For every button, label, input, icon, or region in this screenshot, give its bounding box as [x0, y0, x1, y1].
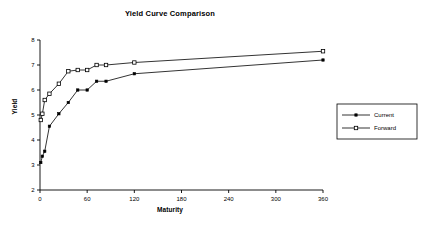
- data-point-current: [133, 73, 135, 75]
- y-tick-label: 6: [31, 87, 35, 93]
- legend-label-forward: Forward: [374, 125, 396, 131]
- data-point-current: [95, 80, 97, 82]
- x-tick-label: 300: [271, 196, 282, 202]
- axes-group: 2345678060120180240300360: [31, 37, 329, 202]
- data-point-current: [44, 150, 46, 152]
- data-point-current: [48, 125, 50, 127]
- y-tick-label: 4: [31, 137, 35, 143]
- y-tick-label: 8: [31, 37, 35, 43]
- y-tick-label: 5: [31, 112, 35, 118]
- series-current: [40, 59, 325, 164]
- legend-group: CurrentForward: [337, 104, 417, 139]
- data-point-forward: [321, 50, 324, 53]
- data-point-forward: [39, 118, 42, 121]
- x-tick-label: 240: [224, 196, 235, 202]
- data-point-current: [322, 59, 324, 61]
- data-point-forward: [48, 92, 51, 95]
- data-point-current: [105, 80, 107, 82]
- x-tick-label: 60: [84, 196, 91, 202]
- legend-marker-forward: [354, 126, 357, 129]
- data-point-forward: [85, 68, 88, 71]
- yield-curve-chart: Yield Curve Comparison Maturity Yield 23…: [0, 0, 428, 235]
- x-tick-label: 180: [176, 196, 187, 202]
- y-tick-label: 7: [31, 62, 35, 68]
- data-point-forward: [133, 61, 136, 64]
- series-forward: [39, 50, 325, 122]
- data-point-forward: [76, 68, 79, 71]
- data-point-forward: [104, 63, 107, 66]
- legend-marker-current: [355, 114, 357, 116]
- series-line-forward: [41, 51, 323, 120]
- data-point-forward: [41, 112, 44, 115]
- plot-area: 2345678060120180240300360 CurrentForward: [0, 0, 428, 235]
- series-group: [39, 50, 325, 164]
- x-tick-label: 0: [38, 196, 42, 202]
- y-tick-label: 2: [31, 187, 35, 193]
- data-point-forward: [43, 98, 46, 101]
- x-tick-label: 360: [318, 196, 329, 202]
- data-point-forward: [67, 70, 70, 73]
- data-point-current: [77, 89, 79, 91]
- data-point-current: [58, 113, 60, 115]
- legend-label-current: Current: [374, 112, 394, 118]
- legend-box: [337, 104, 417, 139]
- data-point-current: [67, 101, 69, 103]
- data-point-forward: [95, 63, 98, 66]
- x-tick-label: 120: [129, 196, 140, 202]
- data-point-forward: [57, 82, 60, 85]
- y-tick-label: 3: [31, 162, 35, 168]
- series-line-current: [41, 60, 323, 163]
- data-point-current: [41, 155, 43, 157]
- data-point-current: [40, 161, 42, 163]
- data-point-current: [86, 89, 88, 91]
